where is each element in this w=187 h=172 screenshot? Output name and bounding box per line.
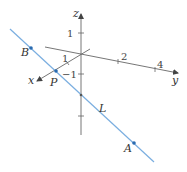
point-P (54, 69, 58, 73)
point-B (29, 46, 33, 50)
y-tick-label-4: 4 (157, 59, 163, 70)
x-axis-label: x (28, 74, 35, 87)
line-z-intersection (80, 94, 83, 97)
y-axis-label: y (171, 74, 179, 87)
x-tick-label-1: 1 (62, 53, 68, 64)
diagram-canvas: z 1 −1 2 4 y 1 x B P A L (0, 0, 187, 172)
z-axis (78, 14, 84, 135)
point-B-label: B (20, 46, 29, 59)
z-tick-label-1: 1 (67, 28, 73, 39)
point-A (132, 141, 136, 145)
point-P-label: P (49, 76, 58, 89)
z-tick-label-neg1: −1 (62, 69, 77, 80)
y-tick-label-2: 2 (121, 51, 127, 62)
z-axis-label: z (72, 7, 79, 20)
point-A-label: A (123, 142, 132, 155)
line-L-label: L (98, 102, 106, 115)
